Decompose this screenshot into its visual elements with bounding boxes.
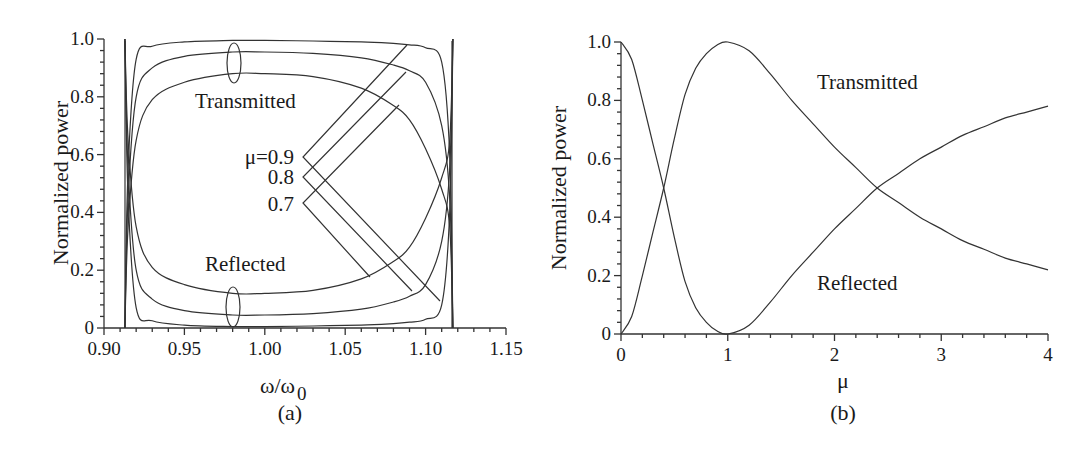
panel-a-x-axis-title: ω/ω: [260, 373, 295, 398]
panel-b-y-axis-title: Normalized power: [546, 105, 571, 270]
y-tick-label: 1.0: [70, 28, 94, 49]
x-tick-label: 4: [1043, 344, 1053, 365]
mu-0.8-leader-line: [303, 72, 412, 291]
panel-b-chart: 00.20.40.60.81.001234 Transmitted Reflec…: [546, 31, 1053, 425]
panel-a-caption: (a): [278, 400, 302, 425]
x-tick-label: 3: [937, 344, 947, 365]
y-tick-label: 0.4: [70, 201, 94, 222]
x-tick-label: 1: [723, 344, 733, 365]
x-tick-label: 0.90: [87, 338, 120, 359]
panel-b-reflected-label: Reflected: [817, 271, 898, 295]
x-tick-label: 1.15: [489, 338, 522, 359]
mu-0.8-label: 0.8: [268, 165, 294, 189]
x-tick-label: 1.05: [329, 338, 362, 359]
mu-0.7-label: 0.7: [268, 192, 294, 216]
x-tick-label: 1.10: [409, 338, 442, 359]
y-tick-label: 0.6: [70, 144, 94, 165]
figure-canvas: 00.20.40.60.81.00.900.951.001.051.101.15…: [0, 0, 1081, 450]
y-tick-label: 0.2: [587, 265, 611, 286]
panel-b-x-axis-title: μ: [837, 368, 849, 393]
panel-b-caption: (b): [830, 400, 856, 425]
panel-a-y-axis-title: Normalized power: [48, 100, 73, 265]
panel-b-transmitted-label: Transmitted: [817, 70, 918, 94]
panel-a-reflected-label: Reflected: [205, 252, 286, 276]
x-tick-label: 0: [616, 344, 626, 365]
x-tick-label: 1.00: [248, 338, 281, 359]
y-tick-label: 0: [85, 317, 95, 338]
panel-a-chart: 00.20.40.60.81.00.900.951.001.051.101.15…: [48, 28, 523, 425]
y-tick-label: 0.6: [587, 148, 611, 169]
mu-0.7-leader-line: [303, 105, 399, 277]
transmitted-group-ellipse: [227, 43, 241, 83]
y-tick-label: 0.8: [70, 86, 94, 107]
mu-0.9-leader-line: [303, 45, 440, 301]
y-tick-label: 0: [602, 323, 612, 344]
panel-a-axes: 00.20.40.60.81.00.900.951.001.051.101.15: [70, 28, 522, 359]
y-tick-label: 0.8: [587, 89, 611, 110]
y-tick-label: 0.4: [587, 206, 611, 227]
panel-a-transmitted-label: Transmitted: [195, 89, 296, 113]
x-tick-label: 2: [830, 344, 840, 365]
y-tick-label: 1.0: [587, 31, 611, 52]
y-tick-label: 0.2: [70, 259, 94, 280]
x-tick-label: 0.95: [168, 338, 201, 359]
